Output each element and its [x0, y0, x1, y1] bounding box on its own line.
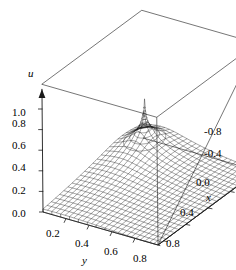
- u-tick-4: 0.8: [12, 118, 26, 129]
- x-tick-0: -0.8: [204, 126, 221, 137]
- x-tick-2: 0.0: [196, 177, 210, 188]
- plot-canvas: [0, 0, 236, 270]
- x-axis-label: x: [206, 192, 211, 203]
- u-tick-3: 0.6: [12, 140, 26, 151]
- y-axis-label: y: [82, 255, 87, 266]
- surface-mesh: [43, 99, 236, 245]
- u-axis-arrowhead: [39, 89, 46, 98]
- x-tick-1: -0.4: [204, 148, 221, 159]
- y-tick-0: 0.2: [46, 228, 60, 239]
- y-tick-2: 0.6: [104, 246, 118, 257]
- u-tick-5: 1.0: [12, 107, 26, 118]
- y-tick-3: 0.8: [133, 253, 147, 264]
- surface-plot-figure: 0.0 0.2 0.4 0.6 0.8 1.0 -0.8 -0.4 0.0 0.…: [0, 0, 236, 270]
- x-tick-3: 0.4: [180, 207, 194, 218]
- u-tick-0: 0.0: [12, 208, 26, 219]
- u-tick-2: 0.4: [12, 162, 26, 173]
- u-axis-label: u: [28, 68, 34, 79]
- u-tick-1: 0.2: [12, 185, 26, 196]
- x-tick-4: 0.8: [166, 238, 180, 249]
- y-tick-1: 0.4: [75, 238, 89, 249]
